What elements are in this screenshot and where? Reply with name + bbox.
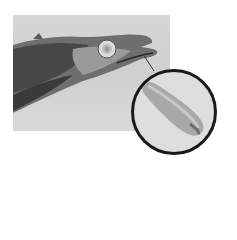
parasite-inset [131,69,217,155]
parasite-illustration [134,72,214,152]
